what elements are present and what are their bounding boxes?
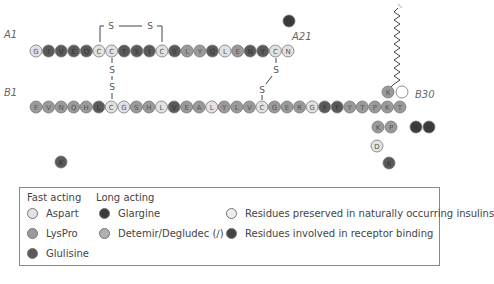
- b-chain-residue: V: [243, 101, 255, 113]
- svg-text:T: T: [121, 48, 127, 56]
- sulfur-label: S: [109, 65, 115, 75]
- a-chain-residue: V: [55, 45, 67, 57]
- analog-modifications: GKKPRRDKK: [55, 15, 435, 169]
- svg-text:Y: Y: [197, 48, 203, 56]
- b-chain-residue: E: [281, 101, 293, 113]
- b-chain-residue: T: [356, 101, 368, 113]
- b-chain-residue: R: [294, 101, 306, 113]
- svg-text:I: I: [48, 48, 50, 56]
- b-chain-residue: F: [30, 101, 42, 113]
- svg-text:K: K: [59, 159, 64, 167]
- b-chain-residue: G: [268, 101, 280, 113]
- svg-text:C: C: [109, 48, 114, 56]
- glulisine-b29: K: [383, 157, 395, 169]
- legend-label: Residues preserved in naturally occurrin…: [245, 208, 494, 219]
- b-chain-residue: A: [193, 101, 205, 113]
- b-chain-residue: Y: [344, 101, 356, 113]
- a1-label: A1: [3, 29, 17, 40]
- svg-text:C: C: [160, 48, 165, 56]
- sulfur-label: S: [109, 82, 115, 92]
- b-chain-residue: H: [80, 101, 92, 113]
- b30-label: B30: [415, 89, 435, 100]
- a-chain-residue: L: [181, 45, 193, 57]
- svg-text:G: G: [33, 48, 38, 56]
- b-chain-residue: L: [231, 101, 243, 113]
- a-chain-residue: Y: [194, 45, 206, 57]
- a-chain-residue: Y: [257, 45, 269, 57]
- svg-text:R: R: [297, 104, 302, 112]
- svg-text:G: G: [286, 18, 291, 26]
- legend-item-preserved-residues: Residues preserved in naturally occurrin…: [226, 208, 494, 219]
- svg-text:P: P: [389, 124, 393, 132]
- sulfur-label: S: [259, 85, 265, 95]
- svg-text:H: H: [84, 104, 89, 112]
- a-chain-residue: T: [118, 45, 130, 57]
- legend: Fast acting Long acting Aspart LysPro Gl…: [19, 187, 440, 266]
- a-chain-residue: S: [169, 45, 181, 57]
- b-chain-residue: G: [306, 101, 318, 113]
- svg-text:D: D: [374, 143, 379, 151]
- b-chain-residue: F: [331, 101, 343, 113]
- b-chain-residue: C: [105, 101, 117, 113]
- legend-label: Residues involved in receptor binding: [245, 228, 433, 239]
- b-chain-residue: H: [143, 101, 155, 113]
- svg-text:C: C: [109, 104, 114, 112]
- legend-label: Glargine: [118, 208, 160, 219]
- svg-text:C: C: [259, 104, 264, 112]
- lyspro-k: K: [372, 121, 384, 133]
- svg-text:T: T: [397, 104, 403, 112]
- glargine-a21-substitution: G: [283, 15, 295, 27]
- receptor-binding-swatch: [226, 228, 237, 239]
- a-chain: GIVEQCCTSICSLYQLENYCN: [30, 45, 294, 57]
- a-chain-residue: E: [68, 45, 80, 57]
- a-chain-residue: C: [106, 45, 118, 57]
- svg-text:E: E: [72, 48, 76, 56]
- a-chain-residue: Q: [80, 45, 92, 57]
- svg-text:V: V: [46, 104, 51, 112]
- svg-text:Y: Y: [221, 104, 227, 112]
- svg-text:Q: Q: [71, 104, 77, 112]
- svg-text:Q: Q: [84, 48, 90, 56]
- svg-text:E: E: [184, 104, 188, 112]
- svg-text:N: N: [58, 104, 63, 112]
- svg-text:F: F: [323, 104, 327, 112]
- a-chain-residue: C: [93, 45, 105, 57]
- a-chain-residue: N: [244, 45, 256, 57]
- svg-text:P: P: [373, 104, 377, 112]
- b-chain-residue: L: [93, 101, 105, 113]
- detemir-lysine: K: [382, 86, 394, 98]
- sulfur-label: S: [273, 65, 279, 75]
- a-chain-residue: N: [282, 45, 294, 57]
- svg-text:Y: Y: [347, 104, 353, 112]
- legend-item-aspart: Aspart: [27, 208, 79, 219]
- svg-text:S: S: [135, 48, 140, 56]
- aspart-swatch: [27, 208, 38, 219]
- svg-text:R: R: [414, 124, 419, 132]
- svg-text:C: C: [273, 48, 278, 56]
- b-chain-residue: L: [156, 101, 168, 113]
- svg-text:H: H: [146, 104, 151, 112]
- svg-text:L: L: [97, 104, 101, 112]
- b-chain-residue: S: [130, 101, 142, 113]
- a-chain-residue: I: [43, 45, 55, 57]
- svg-text:N: N: [285, 48, 290, 56]
- lyspro-p: P: [385, 121, 397, 133]
- svg-text:L: L: [210, 104, 214, 112]
- glargine-b32: R: [423, 121, 435, 133]
- legend-label: LysPro: [46, 228, 78, 239]
- svg-text:V: V: [59, 48, 64, 56]
- b-chain-residue: Y: [218, 101, 230, 113]
- svg-text:E: E: [235, 48, 239, 56]
- a-chain-residue: G: [30, 45, 42, 57]
- b-chain-residue: G: [118, 101, 130, 113]
- b-chain-residue: C: [256, 101, 268, 113]
- svg-text:N: N: [248, 48, 253, 56]
- a-chain-residue: S: [131, 45, 143, 57]
- svg-text:F: F: [335, 104, 339, 112]
- svg-text:L: L: [160, 104, 164, 112]
- a-chain-residue: E: [232, 45, 244, 57]
- b1-label: B1: [4, 87, 17, 98]
- svg-text:G: G: [309, 104, 314, 112]
- svg-text:R: R: [427, 124, 432, 132]
- svg-text:K: K: [387, 160, 392, 168]
